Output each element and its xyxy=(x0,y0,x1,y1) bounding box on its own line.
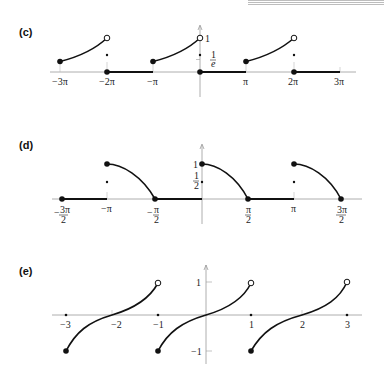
x-label: −1 xyxy=(153,319,164,330)
x-label: −π xyxy=(101,203,112,214)
asterisk-marker xyxy=(250,314,253,317)
x-label-minus: − xyxy=(147,207,153,218)
x-label: −3 xyxy=(60,319,71,330)
asterisk-marker xyxy=(106,54,108,56)
open-point xyxy=(291,35,297,41)
chart-c: 1 1 e −3π −2π −π π 2π 3π xyxy=(50,25,356,97)
chart-d: 1 1 2 − 3π 2 −π − π 2 π 2 π 3π 2 xyxy=(52,144,362,225)
open-point xyxy=(155,280,161,286)
closed-point xyxy=(63,348,69,354)
asterisk-marker xyxy=(106,181,108,183)
cos-arc xyxy=(107,164,155,199)
curve-segment xyxy=(246,38,294,62)
closed-point xyxy=(155,348,161,354)
x-label: 3 xyxy=(345,319,350,330)
x-label: −2π xyxy=(99,76,115,87)
x-label: 1 xyxy=(249,319,254,330)
closed-point xyxy=(59,196,65,202)
closed-point xyxy=(248,348,254,354)
closed-point xyxy=(57,59,63,65)
x-label: −π xyxy=(147,76,158,87)
x-label: 2 xyxy=(300,319,305,330)
open-point xyxy=(104,35,110,41)
closed-point xyxy=(152,196,158,202)
asterisk-marker xyxy=(346,314,349,317)
asterisk-marker xyxy=(293,54,295,56)
x-label-den: 2 xyxy=(154,214,159,225)
y-label-neg-one: −1 xyxy=(191,346,202,357)
s-curve xyxy=(66,283,158,351)
cos-arc xyxy=(202,164,248,199)
x-label: −2 xyxy=(111,319,122,330)
asterisk-marker xyxy=(201,181,203,183)
curve-segment xyxy=(153,38,200,62)
y-label-one: 1 xyxy=(205,33,210,44)
open-point xyxy=(197,35,203,41)
x-label: π xyxy=(291,203,296,214)
closed-point xyxy=(104,161,110,167)
x-label: −3π xyxy=(52,76,68,87)
y-label-inv-e-den: e xyxy=(211,58,216,69)
curve-segment xyxy=(60,38,107,62)
closed-point xyxy=(291,69,297,75)
closed-point xyxy=(243,59,249,65)
asterisk-marker xyxy=(199,54,201,56)
asterisk-marker xyxy=(293,181,295,183)
y-label-half-den: 2 xyxy=(194,180,199,191)
s-curve xyxy=(158,283,251,351)
x-label: 2π xyxy=(288,76,298,87)
x-label-den: 2 xyxy=(61,214,66,225)
x-label-den: 2 xyxy=(246,214,251,225)
x-label: 3π xyxy=(334,76,344,87)
closed-point xyxy=(245,196,251,202)
closed-point xyxy=(197,69,203,75)
s-curve xyxy=(251,282,347,351)
cos-arc xyxy=(294,164,341,199)
open-point xyxy=(248,280,254,286)
closed-point xyxy=(199,161,205,167)
closed-point xyxy=(150,59,156,65)
asterisk-marker xyxy=(157,314,160,317)
y-label-one: 1 xyxy=(193,159,198,170)
x-label: π xyxy=(243,76,248,87)
x-label-den: 2 xyxy=(339,214,344,225)
figure-canvas: 1 1 e −3π −2π −π π 2π 3π xyxy=(0,0,384,385)
open-point xyxy=(344,279,350,285)
closed-point xyxy=(291,161,297,167)
chart-e: 1 −1 −3 −2 −1 1 2 3 xyxy=(52,265,362,364)
asterisk-marker xyxy=(65,314,68,317)
closed-point xyxy=(338,196,344,202)
y-label-one: 1 xyxy=(196,277,201,288)
closed-point xyxy=(104,69,110,75)
